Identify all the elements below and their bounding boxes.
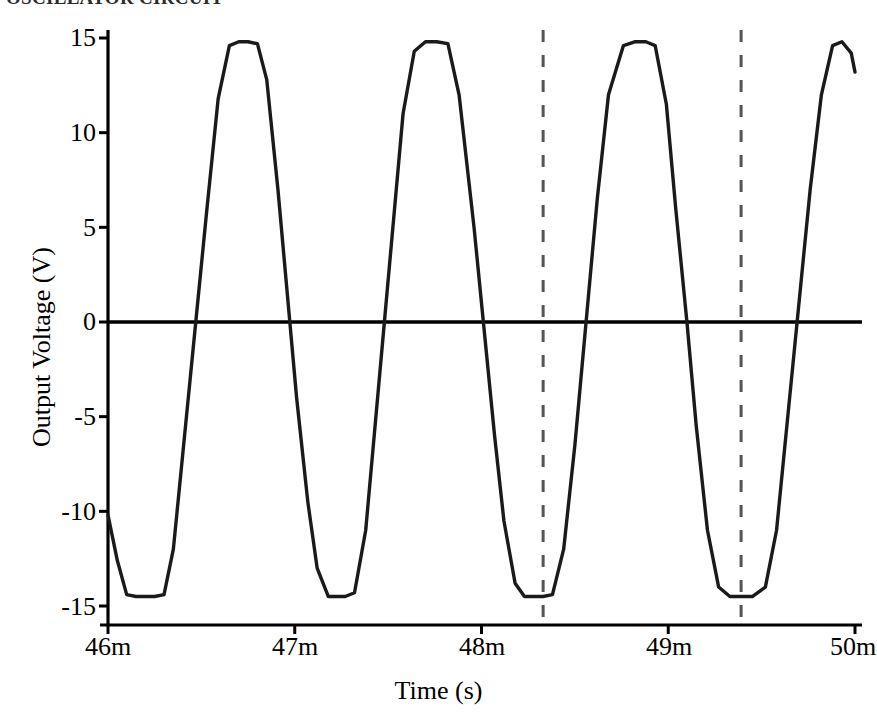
output-voltage-trace (108, 42, 855, 597)
plot-canvas (0, 0, 877, 723)
cursor-marker-lines (543, 30, 741, 618)
oscilloscope-figure: OSCILLATOR CIRCUIT 15 10 5 0 -5 -10 -15 … (0, 0, 877, 723)
